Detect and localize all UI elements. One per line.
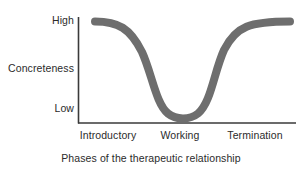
x-tick-label-termination: Termination bbox=[218, 129, 292, 141]
y-axis-title: Concreteness bbox=[8, 62, 74, 74]
chart-figure: High Concreteness Low Introductory Worki… bbox=[0, 0, 302, 173]
x-axis-caption: Phases of the therapeutic relationship bbox=[0, 152, 302, 164]
x-tick-label-introductory: Introductory bbox=[73, 129, 143, 141]
concreteness-curve bbox=[95, 22, 290, 119]
y-tick-label-low: Low bbox=[54, 102, 74, 114]
chart-plot-area bbox=[0, 0, 302, 173]
y-tick-label-high: High bbox=[52, 14, 74, 26]
x-tick-label-working: Working bbox=[150, 129, 210, 141]
